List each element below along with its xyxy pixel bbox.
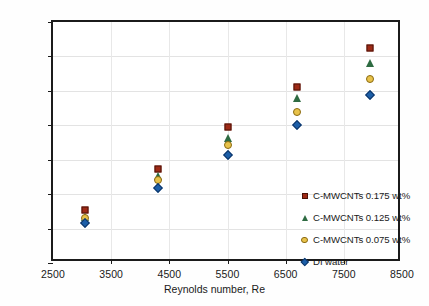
data-point (294, 84, 301, 91)
square-marker-icon (299, 193, 310, 199)
x-axis-title: Reynolds number, Re (0, 283, 429, 295)
gridline-horizontal (53, 91, 398, 92)
gridline-vertical (286, 22, 287, 259)
legend-item-label: C-MWCNTs 0.075 wt% (313, 235, 410, 245)
data-point (293, 94, 301, 102)
gridline-vertical (169, 22, 170, 259)
gridline-horizontal (53, 160, 398, 161)
legend-item: C-MWCNTs 0.125 wt% (299, 210, 410, 226)
scatter-chart-figure: Average Nusselt number, Nu Reynolds numb… (0, 0, 429, 306)
y-tick-mark (48, 22, 53, 23)
legend-item: DI water (299, 254, 410, 270)
data-point (366, 75, 374, 83)
x-tick-label: 5500 (205, 268, 251, 280)
x-tick-label: 3500 (88, 268, 134, 280)
data-point (224, 124, 231, 131)
y-tick-mark (48, 91, 53, 92)
legend-item-label: C-MWCNTs 0.175 wt% (313, 191, 410, 201)
data-point (224, 141, 232, 149)
y-tick-mark (48, 194, 53, 195)
data-point (293, 108, 301, 116)
y-tick-mark (48, 160, 53, 161)
x-tick-mark (111, 259, 112, 264)
legend-item-label: C-MWCNTs 0.125 wt% (313, 213, 410, 223)
x-tick-label: 2500 (30, 268, 76, 280)
legend-item-label: DI water (313, 257, 348, 267)
legend-item: C-MWCNTs 0.075 wt% (299, 232, 410, 248)
y-tick-mark (48, 229, 53, 230)
x-tick-mark (169, 259, 170, 264)
y-tick-mark (48, 263, 53, 264)
x-tick-mark (228, 259, 229, 264)
triangle-marker-icon (299, 215, 310, 221)
gridline-vertical (111, 22, 112, 259)
data-point (366, 59, 374, 67)
chart-legend: C-MWCNTs 0.175 wt%C-MWCNTs 0.125 wt%C-MW… (299, 188, 410, 276)
data-point (223, 150, 233, 160)
plot-area: 2030405060708090 25003500450055006500750… (51, 20, 400, 261)
data-point (367, 45, 374, 52)
data-point (153, 183, 163, 193)
diamond-marker-icon (299, 259, 310, 265)
x-tick-mark (286, 259, 287, 264)
y-tick-mark (48, 56, 53, 57)
circle-marker-icon (299, 237, 310, 244)
gridline-horizontal (53, 56, 398, 57)
legend-item: C-MWCNTs 0.175 wt% (299, 188, 410, 204)
y-tick-mark (48, 125, 53, 126)
data-point (292, 120, 302, 130)
x-tick-label: 4500 (146, 268, 192, 280)
